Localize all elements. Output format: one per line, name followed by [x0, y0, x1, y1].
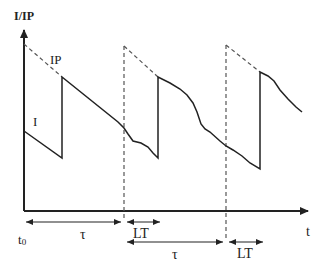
x-axis-label: t: [306, 224, 310, 239]
tau-label-2: τ: [172, 247, 178, 262]
ip-label: IP: [50, 52, 62, 67]
sawtooth-diagram: I/IP t IP I t0 τ LT τ LT: [0, 0, 324, 272]
t0-label: t0: [18, 232, 27, 247]
ip-envelope-2: [124, 46, 158, 77]
tau-label-1: τ: [80, 227, 86, 242]
lt-label-2: LT: [237, 246, 253, 261]
ip-envelope-3: [226, 45, 260, 72]
signal-curve: [24, 72, 302, 169]
i-label: I: [33, 114, 37, 129]
y-axis-label: I/IP: [14, 9, 34, 23]
lt-label-1: LT: [133, 226, 149, 241]
